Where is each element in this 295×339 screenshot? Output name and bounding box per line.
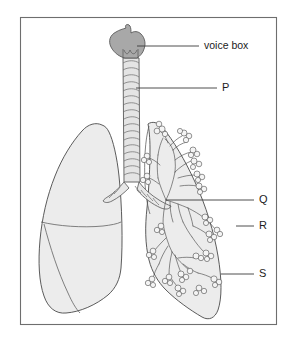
diagram-canvas: voice box P Q R S xyxy=(0,0,295,339)
trachea xyxy=(123,58,140,182)
label-s: S xyxy=(259,267,266,279)
respiratory-system-figure: voice box P Q R S xyxy=(0,0,295,339)
label-q: Q xyxy=(259,193,268,205)
larynx-voice-box xyxy=(110,25,145,58)
label-p: P xyxy=(222,81,229,93)
label-voice-box: voice box xyxy=(204,39,249,51)
label-r: R xyxy=(259,219,267,231)
left-lung xyxy=(39,124,122,313)
